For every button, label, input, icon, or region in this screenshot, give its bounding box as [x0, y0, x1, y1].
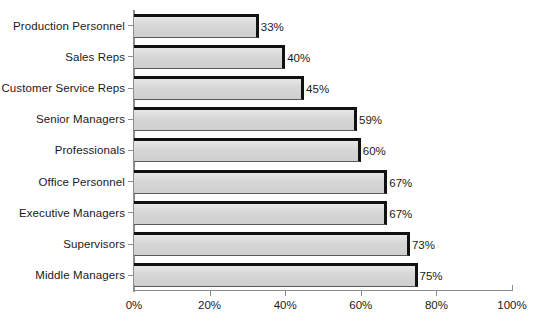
bar-value-label: 67%: [389, 177, 412, 189]
category-label: Professionals: [55, 144, 125, 156]
bar-value-label: 67%: [389, 208, 412, 220]
category-label: Executive Managers: [19, 207, 125, 219]
category-tick: [128, 88, 133, 89]
category-tick: [128, 181, 133, 182]
value-axis-label: 60%: [349, 299, 372, 311]
category-label: Customer Service Reps: [1, 82, 125, 94]
bar-value-label: 33%: [261, 21, 284, 33]
value-axis-label: 20%: [198, 299, 221, 311]
bar: 40%: [134, 45, 285, 69]
plot-area: Production Personnel33%Sales Reps40%Cust…: [134, 10, 512, 291]
chart-row: Office Personnel67%: [134, 166, 512, 197]
category-tick: [128, 150, 133, 151]
category-label: Senior Managers: [36, 113, 125, 125]
category-tick: [128, 244, 133, 245]
bar: 75%: [134, 263, 418, 287]
bar: 45%: [134, 76, 304, 100]
value-axis-label: 40%: [274, 299, 297, 311]
bar-value-label: 60%: [363, 145, 386, 157]
bar-value-label: 40%: [287, 52, 310, 64]
value-axis-tick: [436, 291, 437, 296]
bar-value-label: 45%: [306, 83, 329, 95]
category-label: Supervisors: [63, 238, 125, 250]
value-axis-label: 80%: [425, 299, 448, 311]
bar-value-label: 73%: [412, 239, 435, 251]
category-tick: [128, 212, 133, 213]
bar-value-label: 75%: [420, 270, 443, 282]
bar-chart: Production Personnel33%Sales Reps40%Cust…: [0, 0, 550, 323]
chart-row: Production Personnel33%: [134, 10, 512, 41]
chart-row: Middle Managers75%: [134, 260, 512, 291]
chart-row: Supervisors73%: [134, 229, 512, 260]
category-label: Middle Managers: [35, 269, 125, 281]
category-tick: [128, 56, 133, 57]
bar: 59%: [134, 107, 357, 131]
value-axis-label: 100%: [497, 299, 526, 311]
chart-row: Sales Reps40%: [134, 41, 512, 72]
value-axis-tick: [134, 285, 135, 291]
category-label: Office Personnel: [39, 176, 125, 188]
category-tick: [128, 25, 133, 26]
chart-row: Senior Managers59%: [134, 104, 512, 135]
bar: 67%: [134, 170, 387, 194]
category-label: Production Personnel: [13, 20, 125, 32]
value-axis-tick: [210, 291, 211, 296]
chart-row: Executive Managers67%: [134, 197, 512, 228]
value-axis-tick: [361, 291, 362, 296]
value-axis-label: 0%: [126, 299, 143, 311]
bar: 33%: [134, 14, 259, 38]
bar: 73%: [134, 232, 410, 256]
bar: 60%: [134, 138, 361, 162]
category-tick: [128, 119, 133, 120]
category-label: Sales Reps: [65, 51, 125, 63]
value-axis-tick: [285, 291, 286, 296]
chart-row: Customer Service Reps45%: [134, 72, 512, 103]
bar: 67%: [134, 201, 387, 225]
bar-value-label: 59%: [359, 114, 382, 126]
value-axis-tick: [512, 285, 513, 291]
chart-row: Professionals60%: [134, 135, 512, 166]
category-tick: [128, 275, 133, 276]
